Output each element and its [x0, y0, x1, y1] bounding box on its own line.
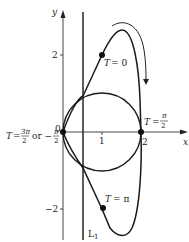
- y-axis-arrow-icon: [61, 10, 66, 18]
- point-t0: T = 0: [99, 52, 127, 68]
- point-t-pi: T = π: [100, 194, 129, 211]
- parametric-plot: y 2 −2 x 1 2 0 L1 T = 0 T = π 2: [0, 0, 189, 242]
- x-axis: x 1 2 0: [55, 124, 188, 147]
- svg-text:= π: = π: [113, 194, 129, 204]
- svg-text:T: T: [104, 58, 111, 68]
- svg-text:2: 2: [54, 137, 58, 145]
- svg-text:=: =: [13, 131, 21, 141]
- y-axis-label: y: [51, 7, 58, 17]
- x-tick-2: 2: [142, 137, 148, 147]
- x-axis-arrow-icon: [180, 130, 188, 135]
- svg-text:π: π: [53, 128, 59, 136]
- x-axis-label: x: [183, 137, 188, 147]
- svg-text:3π: 3π: [21, 128, 30, 136]
- line-l1: L1: [83, 12, 98, 241]
- svg-text:T: T: [144, 117, 151, 127]
- svg-text:2: 2: [161, 122, 165, 130]
- svg-text:π: π: [161, 112, 167, 120]
- svg-text:or −: or −: [32, 131, 52, 141]
- svg-text:2: 2: [22, 137, 26, 145]
- point-t-3pi-over-2: T = 3π 2 or − π 2: [6, 128, 66, 145]
- svg-text:T: T: [6, 131, 13, 141]
- svg-text:=: =: [152, 117, 160, 127]
- svg-text:T: T: [105, 194, 112, 204]
- y-tick-2: 2: [52, 50, 58, 60]
- line-l1-label: L1: [88, 229, 98, 241]
- svg-text:= 0: = 0: [111, 58, 127, 68]
- x-tick-1: 1: [99, 136, 105, 146]
- y-tick-neg2: −2: [45, 204, 58, 214]
